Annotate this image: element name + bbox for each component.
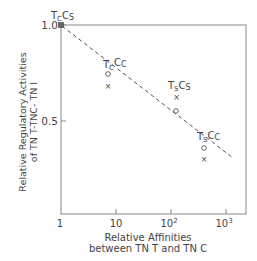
x-axis-label-line1: Relative Affinities bbox=[104, 232, 191, 243]
y-axis-label-line1: Relative Regulatory Activities bbox=[17, 52, 28, 191]
circle-marker-TsCc bbox=[202, 146, 207, 151]
plot-frame bbox=[61, 25, 246, 214]
annotation-TsCc: TSCC bbox=[196, 130, 221, 144]
chart: 1.0 0.5 1 10 102 103 Relative Affinities… bbox=[0, 0, 257, 261]
y-tick-label-0.5: 0.5 bbox=[41, 115, 58, 127]
x-tick-label-1000: 103 bbox=[215, 217, 232, 229]
cross-marker-TcCc: × bbox=[105, 82, 112, 91]
annotation-TcCc: TCCC bbox=[102, 57, 127, 72]
cross-marker-TsCs: × bbox=[173, 93, 180, 102]
circle-marker-TcCc bbox=[106, 72, 111, 77]
x-tick-label-100: 102 bbox=[160, 217, 177, 229]
reference-square-marker bbox=[59, 23, 64, 28]
cross-marker-TsCc: × bbox=[201, 155, 208, 164]
annotation-TsCs: TSCS bbox=[167, 80, 191, 93]
x-axis-label-line2: between TN T and TN C bbox=[89, 243, 207, 254]
x-tick-label-10: 10 bbox=[110, 218, 123, 229]
circle-marker-TsCs bbox=[174, 109, 179, 114]
x-tick-label-1: 1 bbox=[57, 218, 63, 229]
y-axis-label-line2: of TN T-TNC- TN I bbox=[28, 82, 39, 162]
